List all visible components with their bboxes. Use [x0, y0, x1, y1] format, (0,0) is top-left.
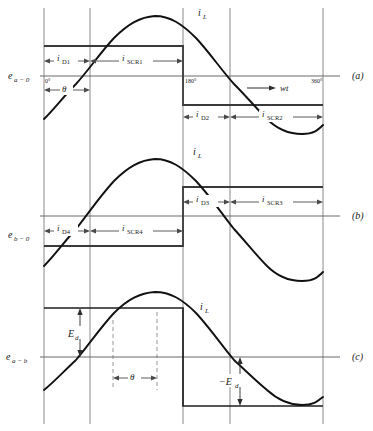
- dim-iD3-sub: D3: [201, 199, 209, 206]
- dim-theta-c-label: θ: [130, 372, 135, 382]
- panel-c-iL-sub: L: [204, 307, 209, 315]
- panel-c-y-label-main: e: [6, 351, 11, 362]
- panel-b-tag: (b): [352, 210, 364, 222]
- dim-iD1-sub: D1: [62, 58, 70, 65]
- panel-a-iL: i: [198, 7, 201, 18]
- panel-c-tag: (c): [352, 351, 364, 363]
- panel-a-iL-sub: L: [202, 13, 207, 21]
- panel-b-y-label-sub: b − 0: [14, 235, 30, 243]
- dim-theta-a-label: θ: [62, 84, 67, 94]
- tick-360deg: 360°: [311, 78, 323, 84]
- panel-b-iL: i: [193, 146, 196, 157]
- dim-iD2-sub: D2: [201, 114, 209, 121]
- waveform-figure: i D1 i SCR1 i D2 i SCR2: [0, 0, 373, 431]
- omega-t-label: wt: [280, 83, 289, 93]
- panel-c-iL: i: [200, 301, 203, 312]
- dim-iD4-sub: D4: [62, 228, 71, 235]
- panel-b-iL-sub: L: [197, 152, 202, 160]
- tick-0deg: 0°: [45, 78, 51, 84]
- dim-iSCR1-sub: SCR1: [127, 58, 143, 65]
- panel-c-y-label-sub: a − b: [12, 357, 28, 365]
- dim-iSCR4-sub: SCR4: [127, 228, 143, 235]
- dim-Ed-label: E: [67, 328, 74, 339]
- panel-b-y-label-main: e: [8, 229, 13, 240]
- dim-iSCR3-sub: SCR3: [267, 199, 283, 206]
- tick-180deg: 180°: [185, 78, 197, 84]
- dim-negEd-label: −E: [219, 376, 232, 387]
- panel-a-y-label-sub: a − 0: [14, 76, 30, 84]
- panel-a-tag: (a): [352, 70, 364, 82]
- dim-iSCR2-sub: SCR2: [267, 114, 283, 121]
- panel-a-y-label-main: e: [8, 70, 13, 81]
- dim-negEd-sub: d: [235, 382, 239, 390]
- dim-Ed-sub: d: [75, 334, 79, 342]
